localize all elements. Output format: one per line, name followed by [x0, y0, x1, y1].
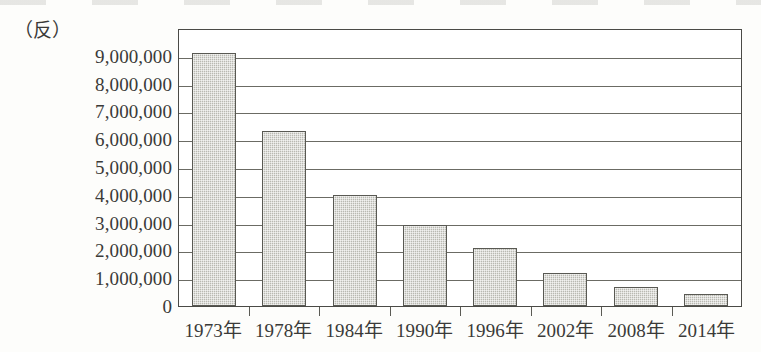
y-axis-tick-label: 6,000,000: [0, 130, 172, 150]
bar-1978年: [262, 131, 306, 306]
x-axis-tick: [249, 307, 250, 316]
bar-2002年: [543, 273, 587, 306]
x-axis-label: 2014年: [672, 316, 743, 348]
y-axis-tick-label: 9,000,000: [0, 47, 172, 67]
y-axis-tick-label: 8,000,000: [0, 75, 172, 95]
x-axis-label: 1990年: [390, 316, 461, 348]
bar-slot: [530, 30, 600, 306]
bar-slot: [390, 30, 460, 306]
bar-series: [179, 30, 741, 306]
bar-1984年: [333, 195, 377, 306]
bar-2008年: [614, 287, 658, 306]
y-axis-tick-label: 5,000,000: [0, 158, 172, 178]
x-axis-label: 1996年: [460, 316, 531, 348]
bar-slot: [249, 30, 319, 306]
y-axis-tick-label: 0: [0, 297, 172, 317]
x-axis-label: 2002年: [531, 316, 602, 348]
x-axis-tick: [460, 307, 461, 316]
bar-1990年: [403, 225, 447, 306]
bar-slot: [671, 30, 741, 306]
y-axis-tick-label: 3,000,000: [0, 214, 172, 234]
x-axis-tick: [531, 307, 532, 316]
bar-slot: [460, 30, 530, 306]
y-axis-tick-label: 2,000,000: [0, 241, 172, 261]
x-axis-tick: [601, 307, 602, 316]
bar-slot: [601, 30, 671, 306]
bar-slot: [179, 30, 249, 306]
bar-1973年: [192, 53, 236, 306]
x-axis-tick: [390, 307, 391, 316]
x-axis-label: 1978年: [249, 316, 320, 348]
bar-1996年: [473, 248, 517, 306]
x-axis-label: 1973年: [178, 316, 249, 348]
chart-page: （反） 10,000,0009,000,0008,000,0007,000,00…: [0, 0, 761, 352]
x-axis-labels: 1973年1978年1984年1990年1996年2002年2008年2014年: [178, 316, 742, 348]
y-axis-tick-label: 7,000,000: [0, 102, 172, 122]
x-axis-tick: [672, 307, 673, 316]
bar-2014年: [684, 294, 728, 307]
x-axis-ticks: [178, 307, 742, 316]
plot-area: [178, 29, 742, 307]
bar-slot: [320, 30, 390, 306]
y-axis-tick-label: 1,000,000: [0, 269, 172, 289]
x-axis-label: 1984年: [319, 316, 390, 348]
x-axis-tick: [319, 307, 320, 316]
y-axis-tick-label: 4,000,000: [0, 186, 172, 206]
x-axis-label: 2008年: [601, 316, 672, 348]
y-axis: 10,000,0009,000,0008,000,0007,000,0006,0…: [0, 0, 172, 352]
